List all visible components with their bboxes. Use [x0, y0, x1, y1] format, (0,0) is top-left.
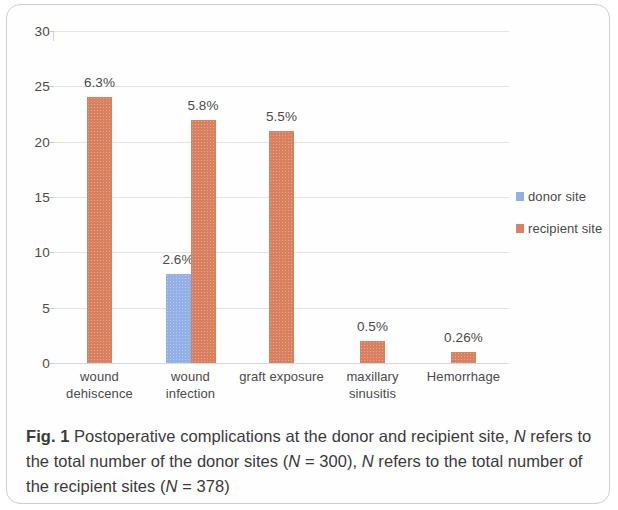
data-label: 0.5% — [357, 319, 388, 334]
bar-donor-site-1 — [166, 274, 191, 363]
caption-n-2: N — [288, 452, 300, 470]
y-axis-line — [53, 31, 54, 41]
y-tick-label: 5 — [24, 300, 50, 315]
figure-caption: Fig. 1 Postoperative complications at th… — [26, 424, 592, 499]
y-tick-label: 15 — [24, 190, 50, 205]
y-tick-10 — [49, 252, 54, 253]
y-tick-label: 10 — [24, 245, 50, 260]
plot-area: 6.3%2.6%5.8%5.5%0.5%0.26% — [54, 31, 509, 363]
y-tick-20 — [49, 142, 54, 143]
legend-label: donor site — [528, 189, 586, 204]
x-tick-label: Hemorrhage — [406, 368, 521, 385]
y-tick-15 — [49, 197, 54, 198]
gridline-25 — [54, 86, 509, 87]
bar-recipient-site-1 — [191, 120, 216, 363]
data-label: 5.8% — [187, 98, 218, 113]
data-label: 0.26% — [444, 330, 483, 345]
bar-recipient-site-3 — [360, 341, 385, 363]
legend-swatch-icon — [516, 192, 524, 201]
y-tick-label: 20 — [24, 134, 50, 149]
caption-n-4: N — [166, 477, 178, 495]
caption-n-1: N — [514, 427, 526, 445]
data-label: 6.3% — [84, 75, 115, 90]
y-axis: 051015202530 — [20, 0, 50, 418]
data-label: 2.6% — [162, 252, 193, 267]
y-tick-label: 25 — [24, 79, 50, 94]
bar-chart: 051015202530 6.3%2.6%5.8%5.5%0.5%0.26% w… — [0, 0, 618, 418]
bar-recipient-site-4 — [451, 352, 476, 363]
legend-item-recipient-site: recipient site — [516, 221, 614, 236]
data-label: 5.5% — [266, 109, 297, 124]
legend-item-donor-site: donor site — [516, 189, 614, 204]
gridline-0 — [54, 363, 509, 364]
caption-n-3: N — [362, 452, 374, 470]
bar-recipient-site-0 — [87, 97, 112, 363]
bar-recipient-site-2 — [269, 131, 294, 363]
y-tick-30 — [49, 31, 54, 32]
x-axis: wound dehiscencewound infectiongraft exp… — [54, 368, 509, 414]
figure-label: Fig. 1 — [26, 427, 69, 445]
y-tick-25 — [49, 86, 54, 87]
y-tick-0 — [49, 363, 54, 364]
legend-label: recipient site — [528, 221, 602, 236]
y-tick-5 — [49, 308, 54, 309]
caption-part-3: = 300), — [300, 452, 361, 470]
y-tick-label: 30 — [24, 24, 50, 39]
chart-legend: donor siterecipient site — [516, 189, 614, 253]
caption-part-1: Postoperative complications at the donor… — [74, 427, 514, 445]
caption-part-5: = 378) — [178, 477, 230, 495]
gridline-30 — [54, 31, 509, 32]
legend-swatch-icon — [516, 224, 524, 233]
